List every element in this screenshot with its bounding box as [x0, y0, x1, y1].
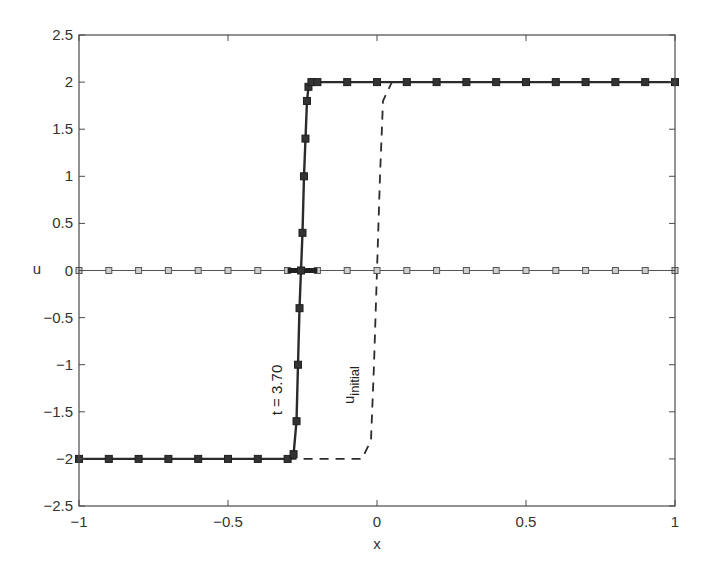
- baseline-marker: [553, 268, 559, 274]
- x-tick-label: 0: [373, 513, 381, 530]
- y-tick-label: −0.5: [43, 309, 73, 326]
- solution-marker: [295, 361, 302, 368]
- solution-marker: [165, 455, 172, 462]
- solution-marker: [642, 79, 649, 86]
- y-tick-label: −2.5: [43, 497, 73, 514]
- x-tick-label: −0.5: [213, 513, 243, 530]
- initial-annotation: uinitial: [340, 366, 362, 404]
- x-tick-label: 1: [671, 513, 679, 530]
- baseline-marker: [255, 268, 261, 274]
- baseline-marker: [434, 268, 440, 274]
- y-tick-label: 0.5: [52, 214, 73, 231]
- y-tick-label: 1.5: [52, 120, 73, 137]
- solution-marker: [582, 79, 589, 86]
- solution-marker: [303, 97, 310, 104]
- solution-marker: [300, 173, 307, 180]
- x-axis-label: x: [373, 535, 381, 552]
- baseline-marker: [493, 268, 499, 274]
- solution-marker: [293, 418, 300, 425]
- baseline-marker: [612, 268, 618, 274]
- y-axis-label: u: [33, 260, 41, 277]
- y-tick-label: 1: [65, 167, 73, 184]
- baseline-marker: [404, 268, 410, 274]
- x-tick-label: 0.5: [516, 513, 537, 530]
- y-tick-label: 2.5: [52, 26, 73, 43]
- baseline-marker: [225, 268, 231, 274]
- axes: −1−0.500.51−2.5−2−1.5−1−0.500.511.522.5: [43, 26, 679, 530]
- baseline-marker: [344, 268, 350, 274]
- solution-marker: [374, 79, 381, 86]
- solution-marker: [314, 79, 321, 86]
- solution-marker: [403, 79, 410, 86]
- solution-marker: [254, 455, 261, 462]
- initial-annotation-main: u: [340, 396, 357, 404]
- solution-marker: [299, 229, 306, 236]
- baseline-marker: [195, 268, 201, 274]
- solution-marker: [344, 79, 351, 86]
- solution-marker: [463, 79, 470, 86]
- solution-marker: [290, 451, 297, 458]
- chart: −1−0.500.51−2.5−2−1.5−1−0.500.511.522.5 …: [0, 0, 711, 572]
- baseline-marker: [374, 268, 380, 274]
- solution-marker: [298, 267, 305, 274]
- x-tick-label: −1: [70, 513, 87, 530]
- baseline-marker: [523, 268, 529, 274]
- solution-marker: [302, 135, 309, 142]
- baseline-marker: [583, 268, 589, 274]
- plot-layer: [76, 79, 679, 463]
- solution-marker: [612, 79, 619, 86]
- solution-marker: [552, 79, 559, 86]
- baseline-marker: [136, 268, 142, 274]
- solution-marker: [225, 455, 232, 462]
- y-tick-label: −1: [56, 356, 73, 373]
- baseline-marker: [463, 268, 469, 274]
- solution-marker: [493, 79, 500, 86]
- solution-marker: [135, 455, 142, 462]
- y-tick-label: 0: [65, 262, 73, 279]
- solution-marker: [105, 455, 112, 462]
- baseline-marker: [642, 268, 648, 274]
- baseline-marker: [106, 268, 112, 274]
- y-tick-label: 2: [65, 73, 73, 90]
- solution-marker: [523, 79, 530, 86]
- y-tick-label: −1.5: [43, 403, 73, 420]
- baseline-marker: [165, 268, 171, 274]
- y-tick-label: −2: [56, 450, 73, 467]
- solution-marker: [433, 79, 440, 86]
- solution-marker: [195, 455, 202, 462]
- time-annotation: t = 3.70: [268, 365, 285, 415]
- initial-annotation-sub: initial: [347, 366, 362, 396]
- solution-marker: [296, 305, 303, 312]
